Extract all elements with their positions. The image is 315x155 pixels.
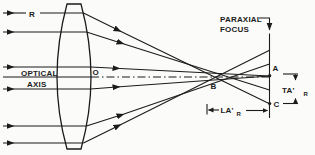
point-b-label: B: [211, 82, 217, 91]
optical-axis-label-line2: AXIS: [27, 80, 47, 89]
spherical-aberration-diagram: R OPTICAL AXIS O PARAXIAL FOCUS A B C TA…: [0, 0, 315, 155]
refracted-ray-paraxial-top: [91, 67, 270, 76]
paraxial-focus-label-line1: PARAXIAL: [220, 15, 262, 24]
optical-axis-label-line1: OPTICAL: [21, 69, 58, 78]
la-label: LA': [221, 106, 234, 115]
incident-rays: [3, 13, 91, 143]
lens-center-label: O: [93, 68, 99, 77]
refracted-ray-paraxial-bottom: [91, 76, 270, 89]
point-c-dot: [268, 102, 271, 105]
refracted-ray-marginal-bottom: [84, 50, 270, 143]
paraxial-focus-label-line2: FOCUS: [220, 25, 249, 34]
point-a-dot: [268, 74, 271, 77]
point-c-label: C: [274, 100, 280, 109]
ray-label: R: [29, 10, 35, 19]
refracted-ray-zonal-top: [87, 32, 270, 90]
la-label-subscript: R: [237, 111, 242, 117]
ta-label-subscript: R: [304, 91, 309, 97]
ta-label: TA': [282, 86, 295, 95]
refracted-ray-zonal-bottom: [87, 64, 270, 126]
point-a-label: A: [273, 64, 279, 73]
diagram-canvas: R OPTICAL AXIS O PARAXIAL FOCUS A B C TA…: [0, 0, 315, 155]
